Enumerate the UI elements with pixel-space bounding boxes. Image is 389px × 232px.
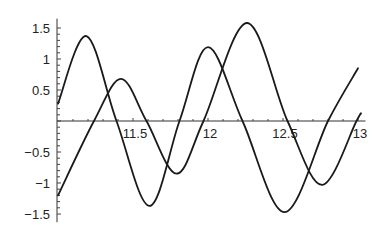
y-tick-label: −1.5: [24, 207, 50, 222]
x-axis: [57, 118, 366, 121]
x-tick-label: 11.5: [123, 126, 147, 141]
series-line-2: [58, 23, 361, 195]
y-tick-label: 1.5: [32, 21, 50, 36]
curves: [58, 23, 361, 212]
y-tick-label: −0.5: [24, 145, 50, 160]
y-tick-labels: 1.510.5−0.5−1−1.5: [24, 21, 50, 222]
x-tick-label: 13: [353, 126, 367, 141]
line-chart: 1.510.5−0.5−1−1.5 11.51212.513: [0, 0, 389, 232]
series-line-1: [58, 36, 358, 212]
y-tick-label: 0.5: [32, 83, 50, 98]
x-tick-label: 12: [203, 126, 217, 141]
y-tick-label: 1: [43, 52, 50, 67]
y-tick-label: −1: [35, 176, 50, 191]
